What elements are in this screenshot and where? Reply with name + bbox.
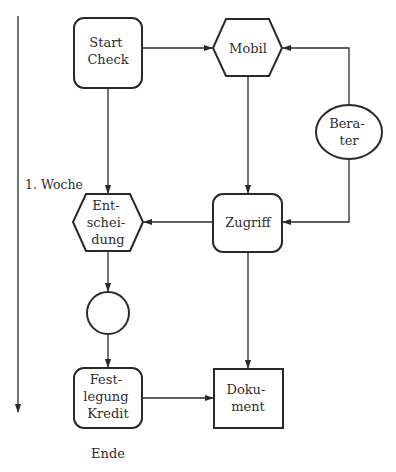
node-start-check: Start Check (74, 18, 142, 88)
flowchart-diagram: 1. Woche Ende Start Check (0, 0, 396, 472)
node-mobil: Mobil (213, 19, 282, 76)
dokument-line-2: ment (231, 399, 265, 414)
start-check-line-1: Start (89, 35, 123, 50)
timeline-week-label: 1. Woche (25, 177, 83, 192)
festlegung-line-3: Kredit (87, 406, 129, 421)
festlegung-kredit-label: Fest- legung Kredit (83, 372, 132, 421)
festlegung-line-1: Fest- (90, 372, 122, 387)
zugriff-label: Zugriff (225, 215, 272, 230)
mobil-line-1: Mobil (229, 41, 267, 56)
entscheidung-label: Ent- schei- dung (87, 198, 130, 247)
edge-berater-to-mobil (283, 48, 349, 105)
edge-berater-to-zugriff (283, 160, 349, 222)
start-check-line-2: Check (87, 52, 128, 67)
entscheidung-line-1: Ent- (92, 198, 119, 213)
berater-ellipse (316, 105, 382, 159)
dokument-line-1: Doku- (226, 382, 265, 397)
node-dokument: Doku- ment (214, 369, 283, 428)
entscheidung-line-3: dung (91, 232, 124, 247)
node-berater: Bera- ter (316, 105, 382, 159)
node-connector (87, 292, 129, 334)
berater-line-2: ter (339, 133, 359, 148)
node-zugriff: Zugriff (213, 194, 282, 252)
entscheidung-line-2: schei- (87, 215, 126, 230)
timeline-end-label: Ende (91, 446, 125, 461)
berater-line-1: Bera- (329, 116, 365, 131)
mobil-label: Mobil (229, 41, 267, 56)
connector-circle (87, 292, 129, 334)
zugriff-line-1: Zugriff (225, 215, 272, 230)
node-entscheidung: Ent- schei- dung (73, 194, 143, 251)
node-festlegung-kredit: Fest- legung Kredit (74, 368, 142, 428)
festlegung-line-2: legung (83, 389, 128, 404)
